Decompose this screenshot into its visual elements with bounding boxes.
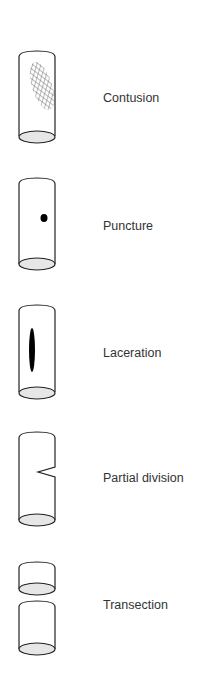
puncture-cylinder-icon	[19, 178, 55, 270]
partial-division-cylinder-icon	[19, 432, 55, 526]
injury-types-diagram: Contusion Puncture Laceration Partial di…	[0, 0, 203, 690]
transection-lower-piece-icon	[19, 601, 55, 655]
puncture-dot-icon	[41, 214, 48, 222]
label-contusion: Contusion	[103, 91, 159, 105]
transection-upper-piece-icon	[19, 562, 55, 595]
label-transection: Transection	[103, 598, 168, 612]
label-partial-division: Partial division	[103, 471, 184, 485]
label-puncture: Puncture	[103, 219, 153, 233]
label-laceration: Laceration	[103, 346, 161, 360]
bruise-hatch-icon	[25, 59, 59, 113]
contusion-cylinder-icon	[19, 51, 59, 143]
laceration-cylinder-icon	[19, 305, 55, 399]
laceration-slit-icon	[29, 328, 35, 372]
